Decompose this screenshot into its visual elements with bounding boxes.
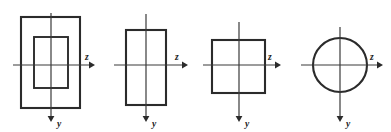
- z-axis-label: z: [369, 52, 374, 62]
- z-axis-arrowhead: [182, 62, 188, 69]
- z-axis-arrowhead: [377, 62, 383, 69]
- figure-canvas: z y z y z y: [0, 0, 391, 132]
- z-axis-arrowhead: [275, 62, 281, 69]
- panel-4-circle: z y: [301, 27, 383, 129]
- panel-2-rectangle: z y: [114, 14, 188, 129]
- y-axis-arrowhead: [337, 116, 344, 122]
- z-axis-arrowhead: [89, 62, 95, 69]
- z-axis-label: z: [267, 52, 272, 62]
- y-axis-label: y: [151, 119, 157, 129]
- y-axis-label: y: [345, 119, 351, 129]
- y-axis-label: y: [56, 119, 62, 129]
- z-axis-label: z: [174, 52, 179, 62]
- y-axis-label: y: [244, 119, 250, 129]
- y-axis-arrowhead: [236, 116, 243, 122]
- y-axis-arrowhead: [48, 116, 55, 122]
- z-axis-label: z: [84, 52, 89, 62]
- panel-3-square: z y: [203, 22, 281, 129]
- cross-section-figure: z y z y z y: [0, 0, 391, 132]
- panel-1-hollow-rectangle: z y: [13, 13, 95, 129]
- y-axis-arrowhead: [143, 116, 150, 122]
